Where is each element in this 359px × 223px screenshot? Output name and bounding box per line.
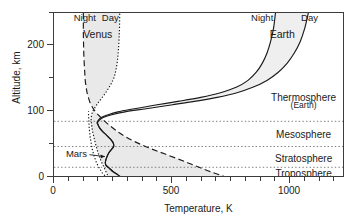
x-tick-minor-6 (142, 177, 143, 181)
venus-shaded-band (83, 13, 228, 177)
x-tick-major-500 (171, 177, 172, 183)
curves-svg (54, 13, 344, 177)
x-tick-minor-16 (319, 177, 320, 181)
x-tick-minor-4 (112, 177, 113, 181)
x-tick-minor-14 (274, 177, 275, 181)
y-tick-label-100: 100 (12, 105, 44, 116)
x-tick-minor-3 (97, 177, 98, 181)
x-tick-label-0: 0 (33, 185, 73, 196)
x-tick-minor-9 (201, 177, 202, 181)
x-tick-major-1000 (289, 177, 290, 183)
x-tick-minor-8 (186, 177, 187, 181)
x-tick-minor-17 (333, 177, 334, 181)
plot-area: Night Day Venus Night Day Earth Mars The… (53, 12, 344, 177)
y-tick-label-0: 0 (12, 171, 44, 182)
x-tick-minor-2 (83, 177, 84, 181)
x-tick-minor-15 (304, 177, 305, 181)
x-tick-major-0 (53, 177, 54, 183)
x-tick-minor-13 (260, 177, 261, 181)
x-tick-label-1000: 1000 (269, 185, 309, 196)
x-tick-minor-1 (68, 177, 69, 181)
x-tick-minor-12 (245, 177, 246, 181)
x-tick-minor-7 (156, 177, 157, 181)
x-axis-title: Temperature, K (53, 203, 344, 214)
y-tick-label-200: 200 (12, 39, 44, 50)
x-tick-minor-11 (230, 177, 231, 181)
temperature-altitude-chart: Altitude, km 200 100 0 Temperature, K 0 … (0, 0, 359, 223)
x-tick-minor-5 (127, 177, 128, 181)
x-tick-label-500: 500 (151, 185, 191, 196)
x-tick-minor-10 (215, 177, 216, 181)
